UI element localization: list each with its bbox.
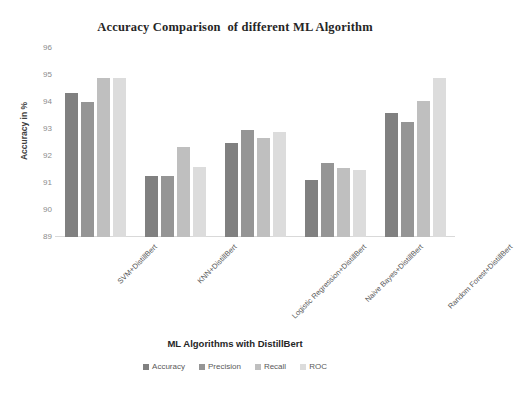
bar[interactable]: [257, 138, 270, 237]
bar[interactable]: [145, 176, 158, 237]
legend-label: Precision: [208, 363, 241, 371]
x-axis-category-label: KNN+DistillBert: [196, 243, 238, 285]
legend-swatch-icon: [199, 364, 205, 370]
y-axis-tick-label: 92: [28, 152, 52, 160]
bar-group: [65, 48, 126, 237]
bar-group: [305, 48, 366, 237]
x-axis-category-label: Logistic Regression+DistillBert: [291, 243, 368, 320]
legend-item[interactable]: Precision: [199, 363, 241, 371]
y-axis-tick-label: 93: [28, 125, 52, 133]
bar-group: [145, 48, 206, 237]
y-axis-tick-label: 95: [28, 71, 52, 79]
x-axis-title: ML Algorithms with DistillBert: [0, 338, 470, 349]
legend-label: ROC: [309, 363, 327, 371]
bar[interactable]: [353, 170, 366, 238]
legend-item[interactable]: Accuracy: [143, 363, 185, 371]
legend-item[interactable]: Recall: [255, 363, 286, 371]
bar[interactable]: [305, 180, 318, 237]
y-axis-ticks: 9695949392919089: [28, 48, 52, 237]
bar[interactable]: [401, 122, 414, 237]
bar[interactable]: [161, 176, 174, 237]
bar[interactable]: [97, 78, 110, 237]
bar[interactable]: [321, 163, 334, 237]
y-axis-tick-label: 89: [28, 233, 52, 241]
x-axis-category-label: Random Forest+DistillBert: [447, 243, 514, 310]
bar[interactable]: [433, 78, 446, 237]
legend-swatch-icon: [255, 364, 261, 370]
bar[interactable]: [193, 167, 206, 237]
chart-legend: AccuracyPrecisionRecallROC: [0, 363, 470, 371]
legend-swatch-icon: [300, 364, 306, 370]
bar[interactable]: [65, 93, 78, 237]
bar-group: [225, 48, 286, 237]
bar[interactable]: [225, 143, 238, 238]
plot-area: [55, 48, 455, 237]
bar[interactable]: [241, 130, 254, 237]
y-axis-tick-label: 96: [28, 44, 52, 52]
y-axis-tick-label: 90: [28, 206, 52, 214]
bar-group: [385, 48, 446, 237]
legend-item[interactable]: ROC: [300, 363, 327, 371]
bar[interactable]: [81, 102, 94, 237]
legend-swatch-icon: [143, 364, 149, 370]
y-axis-tick-label: 94: [28, 98, 52, 106]
x-axis-category-label: SVM+DistillBert: [116, 243, 158, 285]
bar[interactable]: [337, 168, 350, 237]
legend-label: Accuracy: [152, 363, 185, 371]
legend-label: Recall: [264, 363, 286, 371]
bar[interactable]: [417, 101, 430, 237]
chart-title: Accuracy Comparison of different ML Algo…: [0, 20, 470, 35]
bar[interactable]: [273, 132, 286, 237]
bar[interactable]: [177, 147, 190, 237]
y-axis-tick-label: 91: [28, 179, 52, 187]
bar[interactable]: [385, 113, 398, 237]
x-axis-category-label: Naive Bayes+DistillBert: [364, 243, 425, 304]
bar[interactable]: [113, 78, 126, 237]
